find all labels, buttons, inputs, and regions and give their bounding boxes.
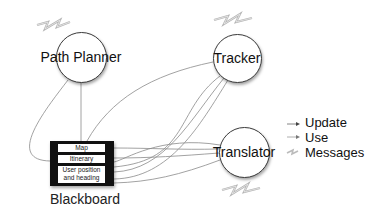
slot-line: User position (58, 166, 105, 174)
blackboard-slot-user-position: User position and heading (58, 166, 105, 183)
zigzag-message-icon (214, 14, 252, 24)
blackboard-slot-map: Map (58, 144, 105, 152)
blackboard-label: Blackboard (50, 191, 120, 207)
zigzag-message-icon (222, 184, 260, 194)
slot-line: and heading (58, 174, 105, 182)
node-path-planner-label: Path Planner (41, 49, 122, 65)
legend-use: Use (305, 130, 328, 145)
legend-marks (287, 122, 300, 154)
legend-update: Update (305, 115, 347, 130)
legend-messages: Messages (305, 145, 364, 160)
blackboard-box: Map Itinerary User position and heading (50, 141, 114, 186)
node-tracker-label: Tracker (214, 50, 261, 66)
zigzag-message-icon (37, 20, 70, 29)
blackboard-slot-itinerary: Itinerary (58, 155, 105, 163)
node-translator-label: Translator (213, 144, 276, 160)
